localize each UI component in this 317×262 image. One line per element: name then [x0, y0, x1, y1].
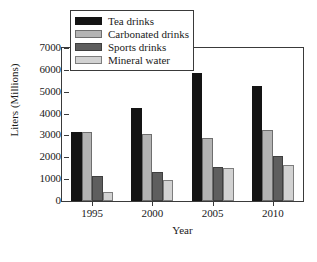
x-tick-label: 2005	[188, 207, 238, 219]
legend-label: Mineral water	[108, 54, 170, 66]
bar	[131, 108, 142, 201]
y-tick-label: 0	[17, 195, 61, 206]
y-tick-label: 7000	[17, 42, 61, 53]
x-tick-mark	[92, 202, 93, 206]
bar	[192, 73, 203, 201]
bar	[252, 86, 263, 201]
bar	[92, 176, 103, 201]
legend-label: Carbonated drinks	[108, 28, 189, 40]
legend-label: Sports drinks	[108, 41, 166, 53]
legend-swatch-icon	[75, 56, 102, 64]
y-tick-label: 1000	[17, 173, 61, 184]
bar	[223, 168, 234, 201]
bar	[213, 167, 224, 201]
bar	[273, 156, 284, 201]
bar	[142, 134, 153, 201]
legend-item: Mineral water	[75, 54, 188, 66]
x-tick-label: 2000	[127, 207, 177, 219]
x-tick-mark	[152, 202, 153, 206]
y-axis-title: Liters (Millions)	[8, 50, 20, 150]
bar-chart: 01000200030004000500060007000 Liters (Mi…	[0, 0, 317, 262]
y-tick-label: 5000	[17, 86, 61, 97]
bar-group	[252, 48, 294, 201]
bar	[71, 132, 82, 201]
bar	[283, 165, 294, 201]
legend-item: Tea drinks	[75, 15, 188, 27]
bar	[152, 172, 163, 201]
y-tick-mark	[64, 201, 69, 202]
legend-item: Sports drinks	[75, 41, 188, 53]
x-tick-label: 2010	[248, 207, 298, 219]
bar	[202, 138, 213, 201]
bar	[103, 192, 114, 201]
chart-legend: Tea drinksCarbonated drinksSports drinks…	[70, 10, 194, 71]
legend-swatch-icon	[75, 17, 102, 25]
legend-item: Carbonated drinks	[75, 28, 188, 40]
bar	[163, 180, 174, 201]
legend-swatch-icon	[75, 43, 102, 51]
x-tick-label: 1995	[67, 207, 117, 219]
y-tick-label: 3000	[17, 129, 61, 140]
bar-group	[192, 48, 234, 201]
bar	[262, 130, 273, 201]
y-tick-label: 6000	[17, 64, 61, 75]
y-tick-label: 4000	[17, 108, 61, 119]
legend-label: Tea drinks	[108, 15, 154, 27]
x-tick-mark	[213, 202, 214, 206]
x-axis-title: Year	[61, 224, 304, 236]
bar	[82, 132, 93, 201]
x-tick-mark	[273, 202, 274, 206]
y-tick-label: 2000	[17, 151, 61, 162]
legend-swatch-icon	[75, 30, 102, 38]
